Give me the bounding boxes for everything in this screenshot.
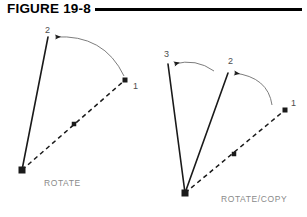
- diagram-rotate-copy-midpoint-marker: [232, 152, 237, 157]
- diagram-rotate-copy-pivot-marker: [182, 190, 189, 197]
- diagram-rotate-label-1: 1: [133, 81, 138, 91]
- diagram-rotate-rotation-arc-2: [55, 37, 124, 76]
- diagram-rotate-copy-rotation-arc-3: [174, 62, 214, 71]
- diagram-rotate-copy-label-2: 2: [228, 56, 233, 66]
- diagram-caption-rotate: ROTATE: [44, 178, 81, 188]
- diagram-rotate-midpoint-marker: [72, 122, 77, 127]
- diagram-rotate-copy-label-3: 3: [164, 49, 169, 59]
- diagram-rotate-copy-original-endpoint-marker: [283, 108, 288, 113]
- figure-page: FIGURE 19-8 ROTATE ROTATE/COPY 12123: [0, 0, 307, 217]
- diagram-caption-rotate-copy: ROTATE/COPY: [221, 194, 287, 204]
- diagram-rotate-rotated-line-2: [22, 37, 48, 170]
- diagram-rotate-copy-rotated-line-3: [168, 64, 185, 193]
- diagram-rotate-original-endpoint-marker: [123, 78, 128, 83]
- diagram-rotate-label-2: 2: [45, 25, 50, 35]
- diagram-rotate-copy-label-1: 1: [291, 98, 296, 108]
- diagram-rotate-pivot-marker: [19, 167, 26, 174]
- diagram-rotate-copy-rotation-arc-2: [234, 73, 272, 105]
